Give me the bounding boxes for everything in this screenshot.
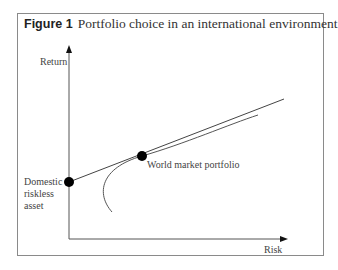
world-market-portfolio-label: World market portfolio bbox=[147, 159, 240, 171]
domestic-riskless-asset-point bbox=[64, 177, 74, 187]
diagram-plot bbox=[0, 0, 338, 270]
domestic-riskless-asset-label: Domestic riskless asset bbox=[24, 176, 62, 212]
y-axis-arrow-icon bbox=[66, 45, 72, 53]
world-market-portfolio-point bbox=[137, 151, 147, 161]
x-axis-arrow-icon bbox=[280, 236, 288, 242]
x-axis-label: Risk bbox=[264, 244, 282, 256]
y-axis-label: Return bbox=[40, 56, 67, 68]
